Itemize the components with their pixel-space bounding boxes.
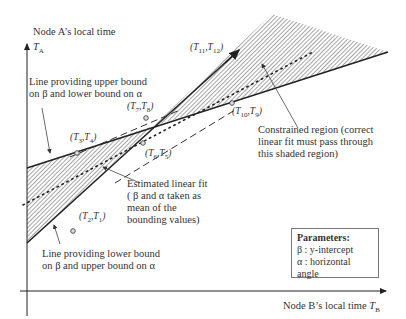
label-t7-t8: (T7,T8)	[127, 101, 153, 114]
x-axis-title: Node B’s local time TB	[283, 300, 380, 316]
y-axis-title: Node A’s local time	[33, 26, 116, 38]
label-t11-t12: (T11,T12)	[190, 42, 223, 55]
annotation-upper-line: Line providing upper bound on β and lowe…	[29, 76, 147, 100]
label-t2-t1: (T2,T1)	[79, 211, 105, 224]
point-t2-t1	[71, 229, 76, 234]
legend-title: Parameters:	[297, 232, 373, 244]
legend-alpha: α : horizontal angle	[297, 256, 373, 280]
leader-lower-line	[54, 225, 60, 244]
point-t7-t8	[144, 116, 149, 121]
annotation-region: Constrained region (correct linear fit m…	[258, 124, 373, 160]
annotation-lower-line: Line providing lower bound on β and uppe…	[42, 248, 160, 272]
point-t6-t5	[141, 141, 146, 146]
label-t6-t5: (T6,T5)	[145, 148, 171, 161]
y-axis-symbol: TA	[33, 41, 44, 55]
point-t10-t9	[230, 101, 235, 106]
point-t3-t4	[75, 151, 80, 156]
label-t10-t9: (T10,T9)	[232, 106, 262, 119]
parameters-legend: Parameters: β : y-intercept α : horizont…	[291, 228, 379, 278]
leader-upper-line	[42, 108, 50, 153]
legend-beta: β : y-intercept	[297, 244, 373, 256]
annotation-fit: Estimated linear fit ( β and α taken as …	[127, 178, 207, 226]
label-t3-t4: (T3,T4)	[70, 132, 96, 145]
